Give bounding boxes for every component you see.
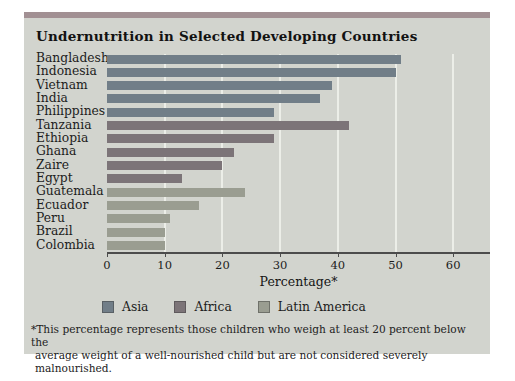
country-label-india: India <box>36 92 68 105</box>
tick-label-30: 30 <box>265 258 295 272</box>
bar-vietnam <box>107 81 332 90</box>
x-axis-label: Percentage* <box>107 274 490 289</box>
tick-mark-60 <box>453 252 454 257</box>
tick-mark-0 <box>107 252 108 257</box>
legend: AsiaAfricaLatin America <box>102 300 366 314</box>
country-label-column: BangladeshIndonesiaVietnamIndiaPhilippin… <box>36 52 106 252</box>
country-label-guatemala: Guatemala <box>36 185 104 198</box>
bar-peru <box>107 214 170 223</box>
legend-item-asia: Asia <box>102 300 148 314</box>
bar-brazil <box>107 228 165 237</box>
bar-bangladesh <box>107 55 401 64</box>
tick-mark-50 <box>396 252 397 257</box>
legend-item-latin-america: Latin America <box>258 300 366 314</box>
tick-mark-30 <box>280 252 281 257</box>
country-label-bangladesh: Bangladesh <box>36 52 109 65</box>
country-label-egypt: Egypt <box>36 172 73 185</box>
top-accent-strip <box>24 12 490 18</box>
country-label-ecuador: Ecuador <box>36 199 88 212</box>
tick-mark-40 <box>338 252 339 257</box>
figure-card: Undernutrition in Selected Developing Co… <box>24 12 490 354</box>
tick-label-20: 20 <box>207 258 237 272</box>
bar-colombia <box>107 241 165 250</box>
bar-ethiopia <box>107 134 274 143</box>
country-label-vietnam: Vietnam <box>36 79 88 92</box>
legend-label: Asia <box>122 300 148 314</box>
legend-label: Africa <box>194 300 231 314</box>
plot-area <box>107 52 490 252</box>
country-label-brazil: Brazil <box>36 225 73 238</box>
bar-zaire <box>107 161 222 170</box>
country-label-zaire: Zaire <box>36 159 69 172</box>
gridline-60 <box>452 54 454 252</box>
country-label-peru: Peru <box>36 212 65 225</box>
bar-egypt <box>107 174 182 183</box>
bar-india <box>107 94 320 103</box>
bar-ghana <box>107 148 234 157</box>
legend-swatch-icon <box>174 301 186 313</box>
country-label-tanzania: Tanzania <box>36 119 92 132</box>
country-label-philippines: Philippines <box>36 105 105 118</box>
footnote-line-2: average weight of a well-nourished child… <box>31 349 483 375</box>
tick-mark-20 <box>222 252 223 257</box>
bar-guatemala <box>107 188 245 197</box>
legend-swatch-icon <box>258 301 270 313</box>
legend-swatch-icon <box>102 301 114 313</box>
footnote: *This percentage represents those childr… <box>31 323 483 375</box>
country-label-colombia: Colombia <box>36 239 95 252</box>
legend-label: Latin America <box>278 300 366 314</box>
footnote-line-1: *This percentage represents those childr… <box>31 323 483 349</box>
tick-label-40: 40 <box>323 258 353 272</box>
country-label-ethiopia: Ethiopia <box>36 132 88 145</box>
tick-label-50: 50 <box>381 258 411 272</box>
tick-label-60: 60 <box>438 258 468 272</box>
country-label-ghana: Ghana <box>36 145 76 158</box>
gridline-50 <box>395 54 397 252</box>
bar-indonesia <box>107 68 396 77</box>
gridline-40 <box>337 54 339 252</box>
bar-ecuador <box>107 201 199 210</box>
legend-item-africa: Africa <box>174 300 231 314</box>
tick-label-0: 0 <box>92 258 122 272</box>
bar-philippines <box>107 108 274 117</box>
tick-mark-10 <box>165 252 166 257</box>
tick-label-10: 10 <box>150 258 180 272</box>
country-label-indonesia: Indonesia <box>36 65 97 78</box>
bar-tanzania <box>107 121 349 130</box>
chart-title: Undernutrition in Selected Developing Co… <box>36 28 417 44</box>
